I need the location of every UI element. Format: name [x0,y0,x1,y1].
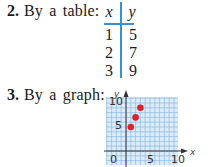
tick-label-y10: 10 [109,95,123,108]
data-point [128,124,135,131]
data-point [137,105,144,112]
tick-label-x10: 10 [171,153,185,166]
y-axis-arrow-icon [124,90,129,97]
graph-svg: x y 0 5 10 5 10 [0,0,208,167]
tick-label-x5: 5 [147,153,154,166]
x-axis-label: x [189,147,196,157]
tick-label-y5: 5 [115,119,122,132]
scatter-graph: x y 0 5 10 5 10 [0,0,208,167]
data-point [132,114,139,121]
tick-label-origin: 0 [110,153,117,166]
